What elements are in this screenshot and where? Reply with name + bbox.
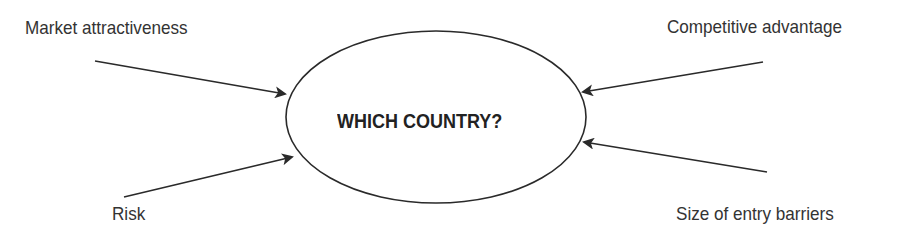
arrow-risk <box>124 157 292 197</box>
arrow-market-attractiveness <box>95 61 285 94</box>
factor-competitive-advantage: Competitive advantage <box>667 16 842 38</box>
center-question: WHICH COUNTRY? <box>337 110 502 133</box>
arrow-size-of-entry-barriers <box>584 142 767 172</box>
factor-market-attractiveness: Market attractiveness <box>25 17 188 39</box>
factor-size-of-entry-barriers: Size of entry barriers <box>676 203 834 225</box>
arrow-competitive-advantage <box>583 62 763 92</box>
factor-risk: Risk <box>112 203 145 225</box>
